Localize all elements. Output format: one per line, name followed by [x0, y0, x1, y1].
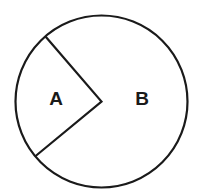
pie-diagram: A B	[0, 0, 197, 195]
sector-label-a: A	[49, 88, 63, 109]
sector-label-b: B	[135, 88, 149, 109]
pie-diagram-svg: A B	[0, 0, 197, 195]
